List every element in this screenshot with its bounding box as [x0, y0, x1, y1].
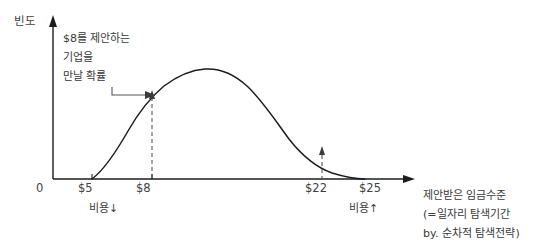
x-axis-label-sub1: (=일자리 탐색기간 — [423, 205, 520, 224]
y-axis-arrowhead — [49, 15, 57, 27]
x-axis-label-block: 제안받은 임금수준 (=일자리 탐색기간 by. 순차적 탐색전략) — [423, 186, 520, 243]
x-tick-label-25: $25 — [359, 181, 381, 196]
y-axis-label: 빈도 — [14, 14, 36, 29]
annotation-leader-line — [112, 87, 146, 95]
x-tick-label-5: $5 — [78, 181, 93, 196]
probability-annotation-line1: $8를 제안하는 — [63, 29, 131, 48]
wage-offer-distribution-chart: 빈도 0 $5 $8 $22 $25 비용↓ 비용↑ $8를 제안하는 기업을 … — [0, 0, 548, 249]
x-axis-label: 제안받은 임금수준 — [423, 186, 520, 205]
x-tick-label-22: $22 — [305, 181, 327, 196]
probability-annotation-line3: 만날 확률 — [63, 67, 131, 86]
dashed-line-22-arrowhead — [319, 146, 325, 155]
origin-label: 0 — [36, 181, 43, 196]
x-axis-label-sub2: by. 순차적 탐색전략) — [423, 224, 520, 243]
x-tick-label-8: $8 — [136, 181, 151, 196]
cost-increasing-label: 비용↑ — [349, 201, 378, 216]
probability-annotation-line2: 기업을 — [63, 48, 131, 67]
x-axis-arrowhead — [403, 175, 415, 183]
cost-decreasing-label: 비용↓ — [89, 201, 118, 216]
offer-distribution-curve — [92, 69, 365, 179]
probability-annotation: $8를 제안하는 기업을 만날 확률 — [63, 29, 131, 86]
